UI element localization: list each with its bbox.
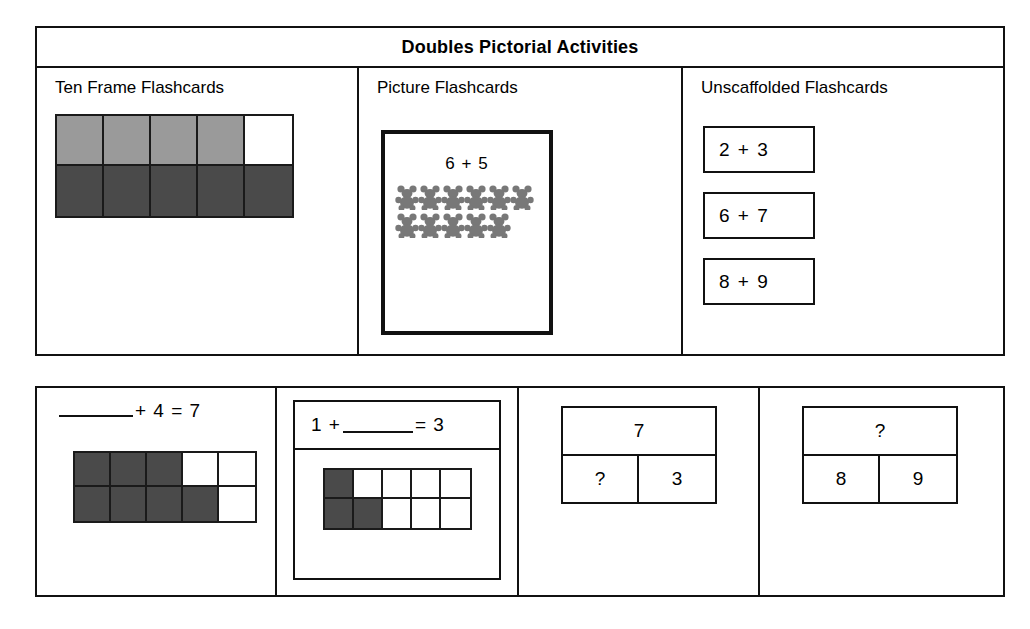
teddy-bear-counter-icon: [418, 184, 442, 210]
ten-frame-row-top: [75, 453, 255, 487]
teddy-bear-counter-icon: [418, 212, 442, 238]
flashcard-equation: 8 + 9: [719, 271, 769, 293]
part-right-value: 3: [639, 456, 715, 502]
column-unscaffolded-flashcards: Unscaffolded Flashcards 2 + 3 6 + 7 8 + …: [683, 68, 1003, 354]
ten-frame-cell: [198, 116, 245, 166]
ten-frame-cell: [57, 166, 104, 216]
whole-value: ?: [804, 408, 956, 456]
picture-flashcard-equation: 6 + 5: [385, 154, 549, 174]
column-heading-ten-frame: Ten Frame Flashcards: [55, 78, 357, 98]
panel-part-whole-7: 7 ? 3: [519, 388, 760, 595]
ten-frame-cell: [111, 453, 147, 487]
teddy-bear-counter-icon: [510, 184, 534, 210]
teddy-bear-counter-icon: [464, 212, 488, 238]
ten-frame-row-bottom: [325, 499, 470, 528]
unscaffolded-flashcard: 6 + 7: [703, 192, 815, 239]
panel-1-plus-blank-equals-3: 1 += 3: [277, 388, 519, 595]
whole-value: 7: [563, 408, 715, 456]
bear-counter-row-top: [385, 184, 549, 210]
ten-frame-1-plus-2: [323, 468, 472, 530]
ten-frame-row-bottom: [57, 166, 292, 216]
part-left-value: 8: [804, 456, 880, 502]
teddy-bear-counter-icon: [464, 184, 488, 210]
flashcard-equation: 2 + 3: [719, 139, 769, 161]
teddy-bear-counter-icon: [441, 212, 465, 238]
ten-frame-cell: [219, 453, 255, 487]
ten-frame-cell: [245, 166, 292, 216]
table-title-bar: Doubles Pictorial Activities: [37, 28, 1003, 68]
column-heading-unscaffolded: Unscaffolded Flashcards: [701, 78, 1003, 98]
top-columns: Ten Frame Flashcards: [37, 68, 1003, 354]
column-ten-frame-flashcards: Ten Frame Flashcards: [37, 68, 359, 354]
ten-frame-4-plus-5: [55, 114, 294, 218]
ten-frame-cell: [325, 470, 354, 499]
ten-frame-cell: [75, 487, 111, 521]
ten-frame-cell: [412, 499, 441, 528]
equation-missing-addend: + 4 = 7: [57, 400, 201, 422]
doubles-pictorial-activities-table: Doubles Pictorial Activities Ten Frame F…: [35, 26, 1005, 356]
ten-frame-cell: [183, 453, 219, 487]
column-picture-flashcards: Picture Flashcards 6 + 5: [359, 68, 683, 354]
panel-blank-plus-4-equals-7: + 4 = 7: [37, 388, 277, 595]
equation-text: + 4 = 7: [135, 400, 201, 421]
ten-frame-row-bottom: [75, 487, 255, 521]
parts-row: ? 3: [563, 456, 715, 502]
equation-text-before: 1 +: [311, 414, 341, 436]
unscaffolded-flashcard: 8 + 9: [703, 258, 815, 305]
unscaffolded-card-list: 2 + 3 6 + 7 8 + 9: [703, 126, 815, 324]
part-right-value: 9: [880, 456, 956, 502]
part-left-value: ?: [563, 456, 639, 502]
picture-flashcard: 6 + 5: [381, 130, 553, 335]
flashcard-equation: 6 + 7: [719, 205, 769, 227]
ten-frame-cell: [104, 166, 151, 216]
ten-frame-cell: [147, 453, 183, 487]
blank-underline: [59, 402, 133, 417]
framed-activity-card: 1 += 3: [293, 400, 501, 580]
ten-frame-cell: [354, 470, 383, 499]
equation-text-after: = 3: [415, 414, 445, 436]
ten-frame-cell: [151, 166, 198, 216]
teddy-bear-counter-icon: [487, 184, 511, 210]
teddy-bear-counter-icon: [441, 184, 465, 210]
equation-missing-addend: 1 += 3: [295, 402, 499, 450]
parts-row: 8 9: [804, 456, 956, 502]
teddy-bear-counter-icon: [487, 212, 511, 238]
missing-addend-activities-table: + 4 = 7: [35, 386, 1005, 597]
panel-part-whole-8-9: ? 8 9: [760, 388, 1003, 595]
ten-frame-cell: [111, 487, 147, 521]
blank-underline: [343, 418, 413, 433]
ten-frame-cell: [325, 499, 354, 528]
ten-frame-cell: [75, 453, 111, 487]
worksheet-page: Doubles Pictorial Activities Ten Frame F…: [0, 0, 1030, 629]
ten-frame-cell: [383, 470, 412, 499]
ten-frame-cell: [441, 470, 470, 499]
column-heading-picture: Picture Flashcards: [377, 78, 681, 98]
page-title: Doubles Pictorial Activities: [402, 37, 639, 58]
ten-frame-row-top: [57, 116, 292, 166]
ten-frame-cell: [104, 116, 151, 166]
ten-frame-cell: [151, 116, 198, 166]
ten-frame-cell: [219, 487, 255, 521]
ten-frame-cell: [354, 499, 383, 528]
ten-frame-cell: [183, 487, 219, 521]
ten-frame-cell: [57, 116, 104, 166]
ten-frame-row-top: [325, 470, 470, 499]
part-part-whole-diagram: ? 8 9: [802, 406, 958, 504]
ten-frame-cell: [412, 470, 441, 499]
bear-counter-row-bottom: [385, 212, 549, 238]
ten-frame-cell: [383, 499, 412, 528]
part-part-whole-diagram: 7 ? 3: [561, 406, 717, 504]
ten-frame-cell: [441, 499, 470, 528]
ten-frame-3-plus-4: [73, 451, 257, 523]
ten-frame-cell: [245, 116, 292, 166]
teddy-bear-counter-icon: [395, 184, 419, 210]
unscaffolded-flashcard: 2 + 3: [703, 126, 815, 173]
ten-frame-cell: [147, 487, 183, 521]
teddy-bear-counter-icon: [395, 212, 419, 238]
ten-frame-cell: [198, 166, 245, 216]
